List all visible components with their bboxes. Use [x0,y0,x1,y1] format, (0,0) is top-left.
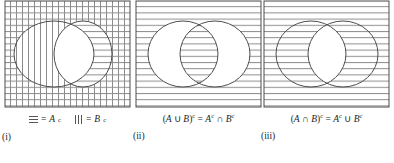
legend-set-label-a: A [49,114,55,124]
caption-ii-operator: ∪ [172,114,184,124]
legend-superscript-a: c [58,116,61,123]
venn-diagram-figure: = Ac = Bc (i) [0,0,394,163]
venn-panel-iii: (A ∩ B)c = Ac ∪ Bc (iii) [261,0,392,163]
venn-diagram-ii [135,0,262,108]
legend-item-b-complement: = Bc [74,114,106,124]
caption-iii-equals: = [323,114,333,124]
caption-iii-operator: ∩ [300,114,312,124]
venn-panel-ii: (A ∪ B)c = Ac ∩ Bc (ii) [133,0,264,163]
panel-label-ii: (ii) [133,131,264,141]
vertical-lines-swatch-icon [74,115,83,124]
venn-diagram-iii [263,0,390,108]
legend-item-a-complement: = Ac [29,114,61,124]
legend-superscript-b: c [103,116,106,123]
legend-equals-sign-a: = [41,114,46,124]
panel-label-iii: (iii) [261,131,392,141]
caption-ii-rhs-b-sup: c [231,112,234,119]
panel-label-i: (i) [2,132,133,142]
caption-iii-rhs-op: ∪ [342,114,354,124]
venn-panel-i: = Ac = Bc (i) [2,0,133,163]
caption-iii: (A ∩ B)c = Ac ∪ Bc [261,112,392,126]
caption-ii-equals: = [195,114,205,124]
venn-diagram-i [4,0,131,108]
horizontal-lines-swatch-icon [29,115,38,124]
legend-equals-sign-b: = [86,114,91,124]
legend-i: = Ac = Bc [2,111,133,127]
legend-set-label-b: B [94,114,100,124]
caption-ii-rhs-op: ∩ [214,114,226,124]
caption-ii: (A ∪ B)c = Ac ∩ Bc [133,112,264,126]
caption-iii-rhs-b-sup: c [359,112,362,119]
